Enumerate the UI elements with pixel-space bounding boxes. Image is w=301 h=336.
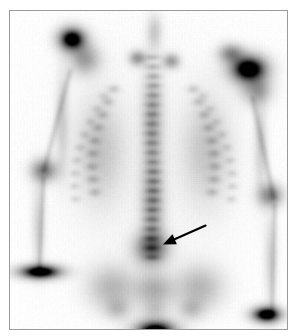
scintigraphy-image: [10, 11, 287, 329]
scan-image-frame: [9, 10, 288, 330]
bone-scintigraphy-figure: [0, 0, 301, 336]
